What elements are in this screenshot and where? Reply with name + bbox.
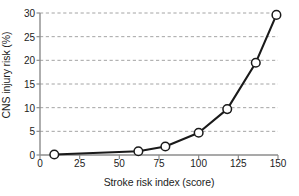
- gridline-group: [40, 13, 278, 131]
- x-tick-label-25: 25: [74, 158, 85, 169]
- data-marker-group: [50, 11, 281, 159]
- data-line-series-1: [54, 15, 276, 155]
- data-point-marker: [251, 58, 260, 67]
- y-tick-label-25: 25: [14, 31, 35, 42]
- y-tick-label-0: 0: [14, 150, 35, 161]
- x-tick-label-125: 125: [230, 158, 247, 169]
- x-tick-label-75: 75: [153, 158, 164, 169]
- x-axis-title: Stroke risk index (score): [40, 176, 278, 188]
- chart-container: CNS injury risk (%) Stroke risk index (s…: [0, 0, 299, 196]
- y-tick-label-5: 5: [14, 126, 35, 137]
- y-tick-label-30: 30: [14, 8, 35, 19]
- x-tick-label-0: 0: [37, 158, 43, 169]
- data-point-marker: [272, 11, 281, 20]
- y-tick-label-15: 15: [14, 79, 35, 90]
- line-chart-plot: [0, 0, 299, 196]
- data-point-marker: [223, 105, 232, 114]
- data-point-marker: [161, 142, 170, 151]
- data-point-marker: [134, 147, 143, 156]
- x-tick-label-100: 100: [190, 158, 207, 169]
- x-tick-label-150: 150: [270, 158, 287, 169]
- data-point-marker: [50, 150, 59, 159]
- y-tick-label-10: 10: [14, 102, 35, 113]
- data-point-marker: [194, 128, 203, 137]
- y-tick-label-20: 20: [14, 55, 35, 66]
- y-axis-title: CNS injury risk (%): [0, 0, 14, 155]
- x-tick-label-50: 50: [114, 158, 125, 169]
